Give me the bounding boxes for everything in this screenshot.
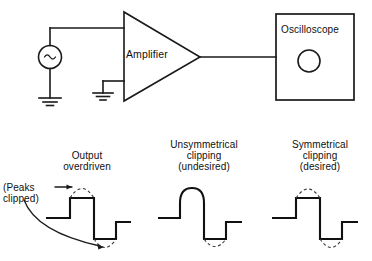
ac-source-group xyxy=(39,28,125,106)
waveform-1-bottom-arrowhead-icon xyxy=(97,244,104,249)
oscilloscope-label: Oscilloscope xyxy=(281,24,339,35)
caption-peaks-clipped: (Peaks clipped) xyxy=(3,182,65,204)
waveform-1-top-arc xyxy=(70,189,94,199)
waveform-unsymmetrical-clipping xyxy=(158,188,242,247)
waveform-3-top-arc xyxy=(296,189,320,198)
figure-canvas: Amplifier Oscilloscope Output overdriven… xyxy=(0,0,372,261)
caption-symmetrical-clipping: Symmetrical clipping (desired) xyxy=(272,139,368,173)
diagram-vectors xyxy=(0,0,372,261)
amplifier-ground-icon xyxy=(93,93,113,100)
scope-screen-circle-icon xyxy=(298,50,320,72)
waveform-1-top-arrowhead-icon xyxy=(67,184,73,189)
caption-unsymmetrical-clipping: Unsymmetrical clipping (undesired) xyxy=(150,139,258,173)
caption-output-overdriven: Output overdriven xyxy=(52,150,122,172)
waveform-2-bottom-arc xyxy=(204,239,226,247)
sine-wave-glyph-icon xyxy=(45,55,56,59)
amplifier-label: Amplifier xyxy=(126,49,168,61)
waveform-3-bottom-arc xyxy=(320,239,342,248)
waveform-1-bottom-arrow-shaft xyxy=(24,200,100,246)
waveform-symmetrical-clipping xyxy=(272,189,358,248)
waveform-2-trace xyxy=(158,188,242,239)
source-ground-icon xyxy=(39,98,61,106)
amplifier-group xyxy=(93,12,276,101)
waveform-3-trace xyxy=(272,198,358,239)
waveform-1-bottom-arc xyxy=(94,239,116,248)
